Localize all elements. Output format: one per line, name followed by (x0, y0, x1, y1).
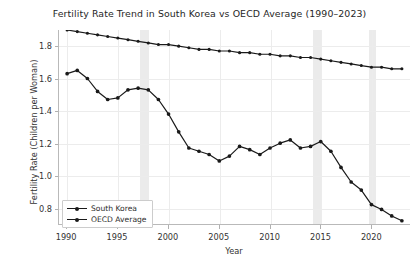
data-point (86, 32, 89, 35)
data-point (248, 51, 251, 54)
data-point (126, 38, 129, 41)
data-point (197, 149, 201, 153)
data-point (360, 64, 363, 67)
data-point (106, 98, 110, 102)
data-point (146, 88, 150, 92)
data-point (157, 98, 161, 102)
data-point (187, 146, 191, 150)
data-point (106, 35, 109, 38)
x-tick-label: 2020 (361, 232, 382, 242)
data-point (319, 58, 322, 61)
data-point (66, 30, 69, 32)
data-point (147, 41, 150, 44)
legend-line-marker-icon (67, 216, 87, 223)
data-point (177, 45, 180, 48)
data-point (116, 37, 119, 40)
data-point (65, 72, 69, 76)
data-point (86, 77, 90, 81)
data-point (258, 153, 262, 157)
x-tick-mark (371, 225, 372, 229)
x-tick-label: 1995 (107, 232, 128, 242)
data-point (177, 130, 181, 134)
data-point (329, 149, 333, 153)
data-point (359, 188, 363, 192)
data-point (248, 148, 252, 152)
data-point (370, 203, 374, 207)
data-point (339, 166, 343, 170)
data-point (238, 145, 242, 149)
x-tick-mark (219, 225, 220, 229)
data-point (349, 180, 353, 184)
plot-inner (59, 30, 410, 224)
data-point (268, 146, 272, 150)
data-point (96, 33, 99, 36)
data-point (207, 153, 211, 157)
data-point (228, 154, 232, 158)
data-point (157, 43, 160, 46)
data-point (167, 112, 171, 116)
data-point (289, 54, 292, 57)
y-tick-label: 1.4 (6, 106, 52, 116)
x-tick-mark (320, 225, 321, 229)
data-point (400, 219, 404, 223)
x-tick-label: 2005 (208, 232, 229, 242)
data-point (126, 88, 130, 92)
data-point (380, 208, 384, 212)
data-point (197, 48, 200, 51)
data-point (268, 53, 271, 56)
legend-line-marker-icon (67, 205, 87, 212)
data-point (208, 48, 211, 51)
series-lines (59, 30, 410, 224)
data-point (329, 59, 332, 62)
series-line-south-korea (67, 70, 402, 220)
x-tick-label: 1990 (56, 232, 77, 242)
data-point (319, 140, 323, 144)
data-point (76, 30, 79, 33)
x-tick-label: 2000 (157, 232, 178, 242)
data-point (390, 67, 393, 70)
data-point (187, 46, 190, 49)
data-point (278, 141, 282, 145)
plot-area (58, 30, 410, 225)
data-point (279, 54, 282, 57)
chart-figure: Fertility Rate Trend in South Korea vs O… (0, 0, 419, 274)
data-point (258, 53, 261, 56)
data-point (96, 90, 100, 94)
data-point (116, 96, 120, 100)
data-point (167, 43, 170, 46)
data-point (380, 66, 383, 69)
x-axis-label: Year (58, 246, 410, 256)
data-point (137, 40, 140, 43)
data-point (299, 56, 302, 59)
y-tick-label: 0.8 (6, 204, 52, 214)
chart-title: Fertility Rate Trend in South Korea vs O… (0, 8, 419, 19)
data-point (288, 138, 292, 142)
legend-item-oecd-average[interactable]: OECD Average (67, 215, 147, 224)
legend-item-south-korea[interactable]: South Korea (67, 204, 147, 213)
data-point (299, 146, 303, 150)
data-point (390, 214, 394, 218)
data-point (400, 67, 403, 70)
chart-legend: South Korea OECD Average (62, 200, 153, 228)
data-point (228, 49, 231, 52)
data-point (309, 56, 312, 59)
data-point (136, 86, 140, 90)
y-axis-label: Fertility Rate (Children per Woman) (29, 32, 39, 232)
legend-label-oecd-average: OECD Average (91, 215, 147, 224)
y-tick-label: 1.8 (6, 41, 52, 51)
data-point (339, 61, 342, 64)
x-tick-label: 2015 (310, 232, 331, 242)
data-point (238, 51, 241, 54)
data-point (309, 145, 313, 149)
data-point (75, 69, 79, 73)
data-point (217, 159, 221, 163)
data-point (370, 66, 373, 69)
y-tick-label: 1.6 (6, 74, 52, 84)
y-tick-label: 1.2 (6, 139, 52, 149)
data-point (218, 49, 221, 52)
y-tick-label: 1.0 (6, 171, 52, 181)
legend-label-south-korea: South Korea (91, 204, 137, 213)
x-tick-mark (270, 225, 271, 229)
data-point (350, 62, 353, 65)
x-tick-label: 2010 (259, 232, 280, 242)
